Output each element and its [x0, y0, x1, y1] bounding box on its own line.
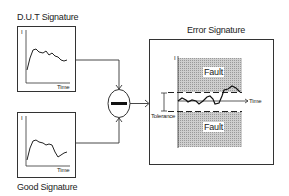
comparator-minus-icon	[108, 90, 130, 118]
dut-connector	[75, 60, 119, 89]
dut-signature-title: D.U.T Signature	[17, 12, 78, 22]
dut-signature-plot	[18, 27, 76, 92]
good-connector	[75, 118, 119, 143]
dut-y-axis-label: I	[21, 29, 22, 35]
good-y-axis-label: I	[21, 115, 22, 121]
dut-x-axis-label: Time	[57, 84, 69, 90]
error-x-axis-label: Time	[249, 98, 261, 104]
good-signature-title: Good Signature	[17, 182, 77, 192]
good-x-axis-label: Time	[57, 167, 69, 173]
error-y-axis-label: I	[174, 55, 175, 61]
error-signature-title: Error Signature	[187, 25, 245, 35]
fault-upper-label: Fault	[203, 67, 224, 77]
fault-lower-label: Fault	[203, 122, 224, 132]
signature-diagram	[0, 0, 289, 196]
tolerance-label: Tolerance	[151, 113, 175, 119]
